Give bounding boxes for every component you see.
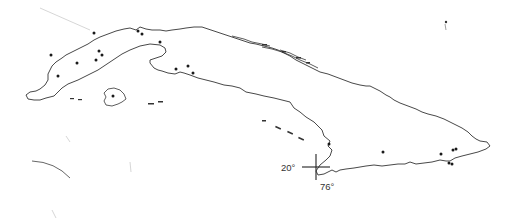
longitude-label: 76° (320, 181, 335, 192)
northern-cays (232, 36, 318, 68)
locality-points (50, 30, 458, 166)
isla-de-la-juventud (104, 88, 126, 106)
cuba-map: 20° 76° (0, 0, 516, 222)
latitude-label: 20° (281, 162, 296, 173)
cuba-coastline (26, 27, 490, 175)
southern-cays (70, 98, 304, 141)
